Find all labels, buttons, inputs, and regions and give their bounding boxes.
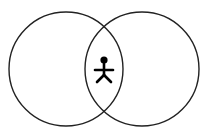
venn-diagram (0, 0, 209, 137)
